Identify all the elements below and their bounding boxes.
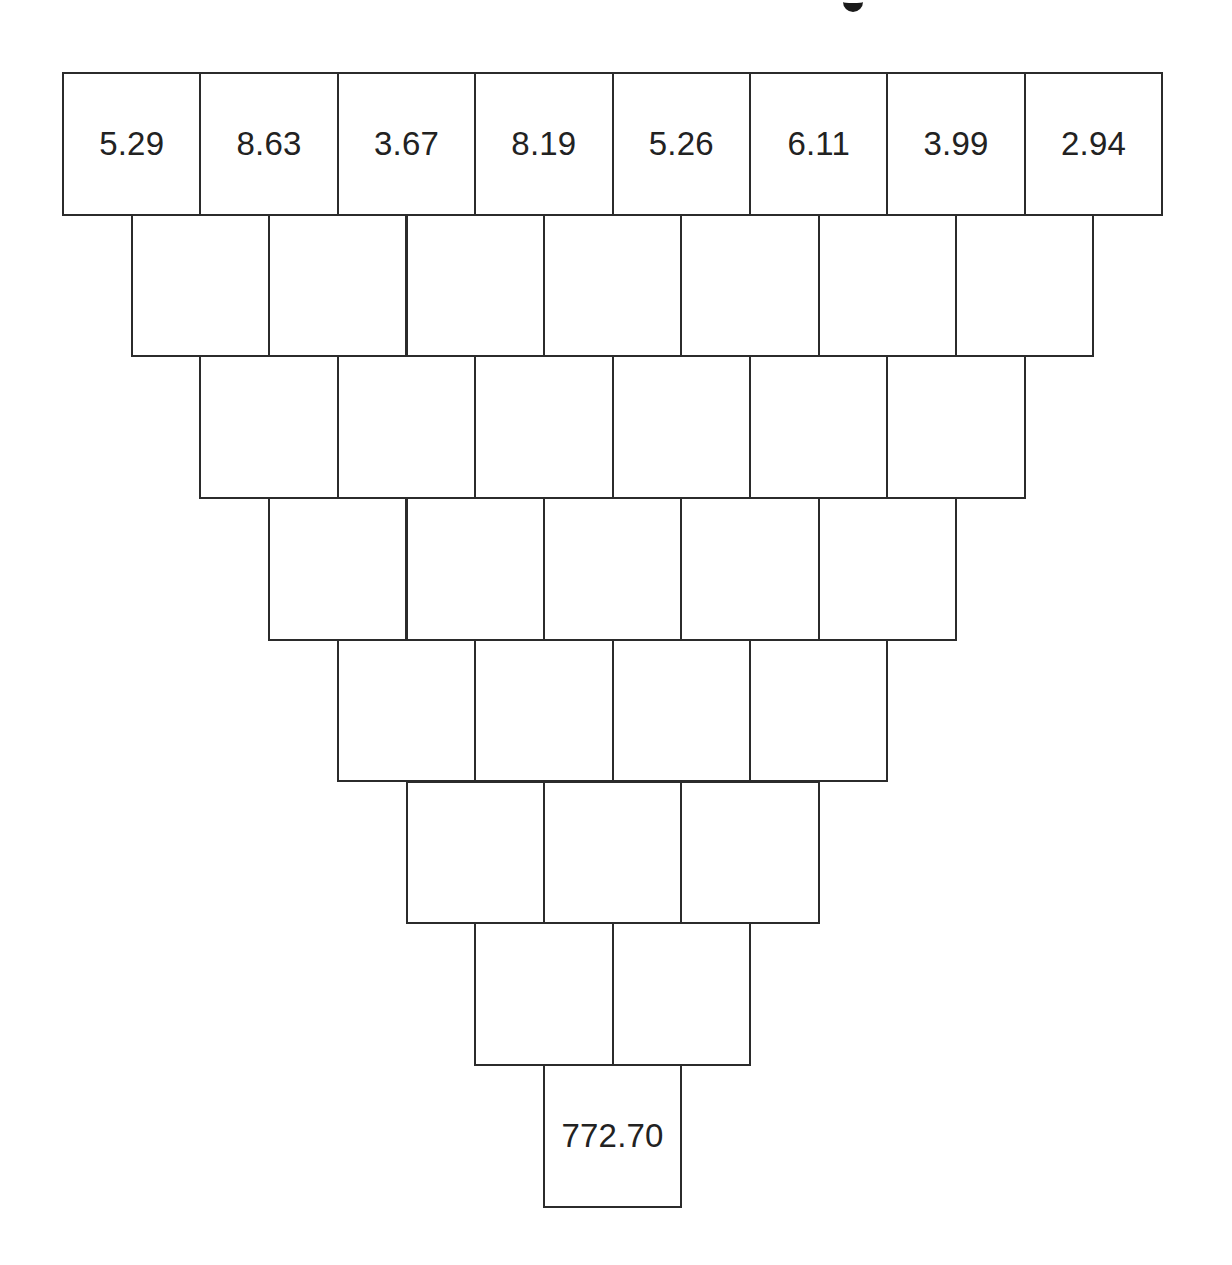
pyramid-cell	[268, 214, 407, 358]
pyramid-cell: 8.63	[199, 72, 338, 216]
pyramid-cell	[406, 781, 545, 925]
pyramid-cell	[474, 922, 613, 1066]
pyramid-cell: 5.26	[612, 72, 751, 216]
pyramid-cell	[680, 214, 819, 358]
pyramid-cell	[543, 497, 682, 641]
pyramid-cell	[406, 497, 545, 641]
pyramid-cell	[818, 497, 957, 641]
pyramid-cell	[749, 355, 888, 499]
pyramid-cell: 2.94	[1024, 72, 1163, 216]
pyramid-cell: 8.19	[474, 72, 613, 216]
pyramid-cell	[268, 497, 407, 641]
pyramid-cell	[749, 639, 888, 783]
pyramid-cell	[474, 355, 613, 499]
pyramid-cell	[406, 214, 545, 358]
pyramid-cell	[543, 781, 682, 925]
pyramid-cell	[543, 214, 682, 358]
pyramid-cell	[955, 214, 1094, 358]
pyramid-cell	[612, 922, 751, 1066]
pyramid-cell: 3.99	[886, 72, 1025, 216]
pyramid-cell	[131, 214, 270, 358]
pyramid-cell	[612, 639, 751, 783]
pyramid-cell	[199, 355, 338, 499]
pyramid-cell	[818, 214, 957, 358]
pyramid-cell	[886, 355, 1025, 499]
pyramid-cell: 3.67	[337, 72, 476, 216]
pyramid-cell	[474, 639, 613, 783]
pyramid-cell	[337, 355, 476, 499]
pyramid-cell	[612, 355, 751, 499]
pyramid-cell: 6.11	[749, 72, 888, 216]
pyramid-cell: 5.29	[62, 72, 201, 216]
pyramid-cell	[337, 639, 476, 783]
pyramid-apex-cell: 772.70	[543, 1064, 682, 1208]
number-pyramid: 5.298.633.678.195.266.113.992.94772.70	[0, 0, 1232, 1265]
pyramid-cell	[680, 781, 819, 925]
pyramid-cell	[680, 497, 819, 641]
